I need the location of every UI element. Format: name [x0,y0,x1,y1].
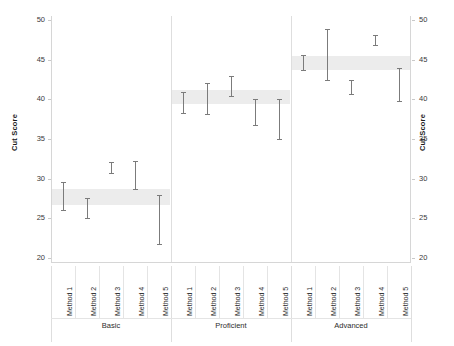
error-bar-basic-method-1 [63,182,64,210]
y-tick-mark-right-50 [412,20,415,21]
group-separator-advanced [411,266,412,342]
x-tick-label-proficient-method-3: Method 3 [234,287,241,316]
panel-separator-proficient [171,16,172,262]
x-tick-label-basic-method-2: Method 2 [90,287,97,316]
x-tick-label-advanced-method-4: Method 4 [378,287,385,316]
x-tick-separator [267,266,268,318]
error-bar-cap-lower [157,244,162,245]
error-bar-cap-upper [181,92,186,93]
y-axis-title-left: Cut Score [10,114,19,151]
y-axis-right-spine [410,16,411,262]
x-tick-separator [243,266,244,318]
error-bar-cap-lower [301,70,306,71]
y-tick-mark-right-30 [412,179,415,180]
x-tick-label-advanced-method-3: Method 3 [354,287,361,316]
error-bar-cap-upper [229,76,234,77]
y-axis-title-right: Cut Score [418,114,427,151]
error-bar-cap-upper [325,29,330,30]
group-label-advanced: Advanced [291,321,411,330]
error-bar-cap-upper [349,80,354,81]
x-tick-separator [123,266,124,318]
y-tick-label-right-50: 50 [419,15,439,24]
group-label-proficient: Proficient [171,321,291,330]
y-tick-label-left-50: 50 [25,15,45,24]
x-tick-separator [363,266,364,318]
error-bar-advanced-method-5 [399,68,400,101]
x-tick-label-proficient-method-5: Method 5 [282,287,289,316]
error-bar-cap-upper [157,195,162,196]
cut-score-error-bar-chart: Cut Score Cut Score 20202525303035354040… [0,0,454,346]
y-tick-mark-right-40 [412,99,415,100]
x-tick-label-advanced-method-5: Method 5 [402,287,409,316]
error-bar-cap-lower [253,125,258,126]
y-tick-mark-left-45 [48,60,51,61]
x-tick-separator [219,266,220,318]
error-bar-cap-lower [61,210,66,211]
error-bar-cap-upper [253,99,258,100]
group-rule-basic [51,318,171,319]
y-tick-mark-left-20 [48,258,51,259]
y-tick-label-right-25: 25 [419,213,439,222]
y-tick-label-right-35: 35 [419,134,439,143]
group-separator-proficient [291,266,292,342]
error-bar-cap-upper [277,99,282,100]
reference-band-basic [52,189,170,205]
error-bar-proficient-method-3 [231,76,232,97]
error-bar-cap-upper [205,83,210,84]
y-tick-mark-right-20 [412,258,415,259]
error-bar-cap-lower [133,189,138,190]
error-bar-cap-lower [205,114,210,115]
error-bar-proficient-method-2 [207,83,208,113]
error-bar-cap-upper [133,161,138,162]
y-tick-mark-left-25 [48,218,51,219]
error-bar-advanced-method-4 [375,35,376,45]
error-bar-cap-upper [373,35,378,36]
error-bar-basic-method-5 [159,195,160,244]
group-label-basic: Basic [51,321,171,330]
x-tick-label-basic-method-3: Method 3 [114,287,121,316]
y-tick-mark-left-50 [48,20,51,21]
y-tick-label-right-45: 45 [419,55,439,64]
y-tick-label-right-20: 20 [419,253,439,262]
group-rule-advanced [291,318,411,319]
y-tick-label-left-30: 30 [25,174,45,183]
error-bar-basic-method-4 [135,161,136,189]
group-rule-proficient [171,318,291,319]
x-axis-spine [51,262,411,263]
x-tick-label-proficient-method-4: Method 4 [258,287,265,316]
error-bar-cap-lower [373,45,378,46]
error-bar-cap-upper [85,198,90,199]
error-bar-cap-upper [61,182,66,183]
error-bar-basic-method-2 [87,198,88,219]
error-bar-proficient-method-5 [279,99,280,139]
y-tick-mark-left-30 [48,179,51,180]
x-tick-label-advanced-method-2: Method 2 [330,287,337,316]
y-tick-mark-right-35 [412,139,415,140]
x-tick-separator [315,266,316,318]
y-tick-label-right-40: 40 [419,94,439,103]
reference-band-advanced [292,56,410,70]
panel-separator-advanced [291,16,292,262]
error-bar-proficient-method-4 [255,99,256,125]
x-tick-separator [147,266,148,318]
x-tick-label-basic-method-1: Method 1 [66,287,73,316]
y-tick-label-right-30: 30 [419,174,439,183]
error-bar-proficient-method-1 [183,92,184,113]
x-tick-separator [75,266,76,318]
x-tick-label-advanced-method-1: Method 1 [306,287,313,316]
y-tick-label-left-25: 25 [25,213,45,222]
x-tick-separator [387,266,388,318]
error-bar-cap-lower [109,173,114,174]
y-tick-label-left-35: 35 [25,134,45,143]
y-tick-mark-right-25 [412,218,415,219]
error-bar-advanced-method-3 [351,80,352,94]
y-tick-mark-right-45 [412,60,415,61]
y-tick-mark-left-40 [48,99,51,100]
x-tick-label-basic-method-5: Method 5 [162,287,169,316]
x-tick-separator [339,266,340,318]
error-bar-cap-upper [397,68,402,69]
group-separator-basic [171,266,172,342]
x-tick-label-basic-method-4: Method 4 [138,287,145,316]
error-bar-advanced-method-1 [303,55,304,70]
group-separator-start [51,266,52,342]
